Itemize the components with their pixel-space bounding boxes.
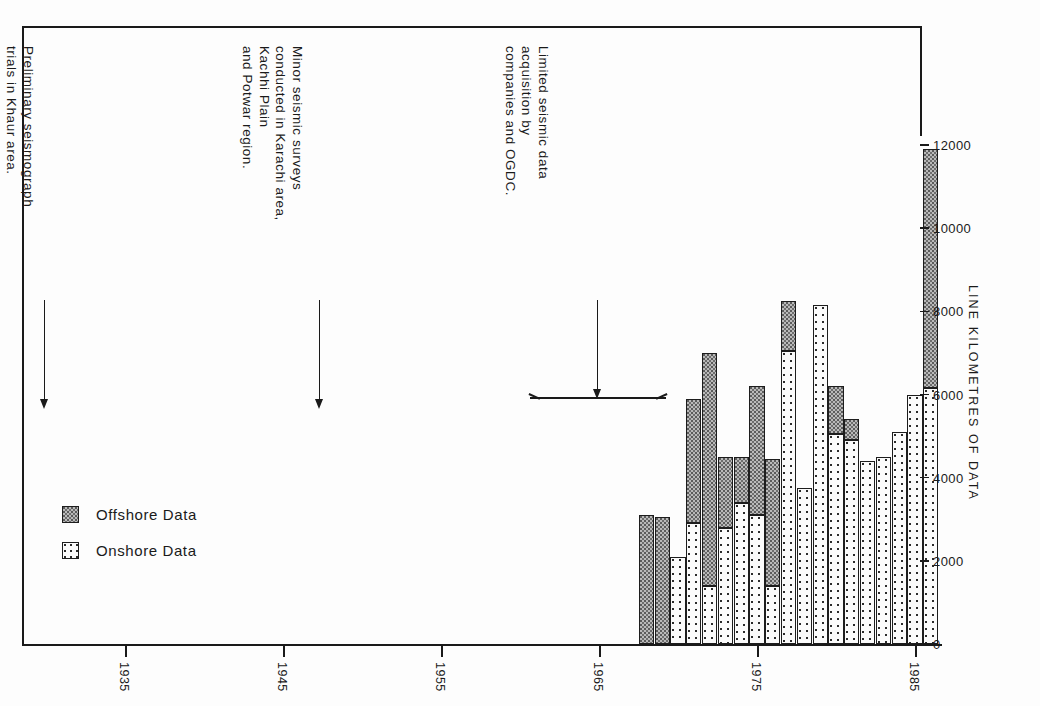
y-axis-tick-label: 6000 xyxy=(933,387,964,402)
bar-segment-onshore xyxy=(702,586,717,644)
annotation-line: conducted in Karachi area, xyxy=(272,46,289,221)
bar-segment-onshore xyxy=(813,305,828,644)
bar-column xyxy=(892,432,907,644)
offshore-swatch-icon xyxy=(62,506,79,523)
bar-segment-offshore xyxy=(734,457,749,503)
bar-segment-offshore xyxy=(844,419,859,440)
x-axis-tick-label: 1945 xyxy=(275,662,289,692)
y-axis-tick-label: 10000 xyxy=(933,221,971,236)
annotation-line: and Potwar region. xyxy=(239,46,256,221)
bar-segment-onshore xyxy=(718,528,733,644)
annotation-preliminary-trials: Preliminary seismograph trials in Khaur … xyxy=(3,46,36,207)
x-axis-tick-label: 1955 xyxy=(433,662,447,692)
bar-column xyxy=(876,457,891,644)
y-axis-tick xyxy=(920,477,929,479)
bar-segment-offshore xyxy=(718,457,733,528)
annotation-line: Limited seismic data xyxy=(535,46,552,196)
bar-column xyxy=(639,515,654,644)
x-axis-tick-label: 1975 xyxy=(749,662,763,692)
annotation-span-range-bar xyxy=(530,397,666,399)
bar-column xyxy=(655,517,670,644)
annotation-line: trials in Khaur area. xyxy=(3,46,20,207)
bar-column xyxy=(813,305,828,644)
legend-item-onshore: Onshore Data xyxy=(62,542,197,559)
y-axis-tick xyxy=(920,144,929,146)
bar-segment-onshore xyxy=(828,434,843,644)
y-axis-tick-label: 12000 xyxy=(933,138,971,153)
bar-column xyxy=(860,461,875,644)
onshore-swatch-icon xyxy=(62,542,79,559)
bar-segment-onshore xyxy=(844,440,859,644)
bar-segment-offshore xyxy=(765,459,780,586)
bar-segment-onshore xyxy=(670,557,685,644)
x-axis-tick xyxy=(915,646,917,657)
bar-column xyxy=(702,353,717,644)
bar-segment-offshore xyxy=(655,517,670,644)
legend-item-label: Offshore Data xyxy=(96,506,197,523)
bar-segment-onshore xyxy=(860,461,875,644)
seismic-data-chart-figure: 020004000600080001000012000 LINE KILOMET… xyxy=(0,0,1040,706)
bar-segment-offshore xyxy=(639,515,654,644)
annotation-line: Kachhi Plain xyxy=(256,46,273,221)
annotation-arrow-preliminary-trials xyxy=(44,300,45,400)
annotation-limited-acquisition: Limited seismic data acquisition by comp… xyxy=(502,46,552,196)
annotation-minor-surveys: Minor seismic surveys conducted in Karac… xyxy=(239,46,305,221)
bar-segment-onshore xyxy=(749,515,764,644)
x-axis-tick-label: 1965 xyxy=(591,662,605,692)
y-axis-tick-label: 4000 xyxy=(933,470,964,485)
bar-segment-onshore xyxy=(734,503,749,644)
y-axis-title: LINE KILOMETRES OF DATA xyxy=(966,285,980,501)
bar-segment-offshore xyxy=(749,386,764,515)
y-axis-tick xyxy=(920,643,929,645)
bar-column xyxy=(749,386,764,644)
x-axis-tick xyxy=(441,646,443,657)
bar-segment-onshore xyxy=(797,488,812,644)
y-axis: 020004000600080001000012000 xyxy=(920,28,1040,646)
bar-segment-onshore xyxy=(686,523,701,644)
y-axis-tick-label: 2000 xyxy=(933,553,964,568)
legend: Offshore Data Onshore Data xyxy=(62,506,197,578)
x-axis-tick xyxy=(757,646,759,657)
bar-column xyxy=(670,557,685,644)
annotation-line: Preliminary seismograph xyxy=(20,46,37,207)
bar-segment-onshore xyxy=(892,432,907,644)
bar-column xyxy=(797,488,812,644)
annotation-line: companies and OGDC. xyxy=(502,46,519,196)
x-axis-tick xyxy=(283,646,285,657)
bar-segment-offshore xyxy=(702,353,717,586)
y-axis-tick xyxy=(920,394,929,396)
x-axis-tick xyxy=(599,646,601,657)
bar-column xyxy=(781,301,796,644)
x-axis-tick-label: 1935 xyxy=(117,662,131,692)
annotation-line: acquisition by xyxy=(518,46,535,196)
y-axis-tick-label: 8000 xyxy=(933,304,964,319)
legend-item-offshore: Offshore Data xyxy=(62,506,197,523)
legend-item-label: Onshore Data xyxy=(96,542,197,559)
bar-segment-offshore xyxy=(781,301,796,351)
annotation-line: Minor seismic surveys xyxy=(289,46,306,221)
bar-column xyxy=(686,399,701,644)
y-axis-tick xyxy=(920,560,929,562)
bar-column xyxy=(828,386,843,644)
bar-column xyxy=(718,457,733,644)
annotation-arrow-minor-surveys xyxy=(319,300,320,400)
y-axis-tick xyxy=(920,227,929,229)
bar-segment-offshore xyxy=(828,386,843,434)
bar-segment-onshore xyxy=(781,351,796,644)
bar-column xyxy=(765,459,780,644)
x-axis-tick xyxy=(125,646,127,657)
bar-segment-offshore xyxy=(686,399,701,524)
bar-column xyxy=(734,457,749,644)
bar-column xyxy=(844,419,859,644)
x-axis: 193519451955196519751985 xyxy=(0,646,1040,706)
bar-segment-onshore xyxy=(765,586,780,644)
x-axis-tick-label: 1985 xyxy=(907,662,921,692)
bar-segment-onshore xyxy=(876,457,891,644)
annotation-arrow-limited-acquisition xyxy=(597,300,598,390)
y-axis-tick xyxy=(920,311,929,313)
